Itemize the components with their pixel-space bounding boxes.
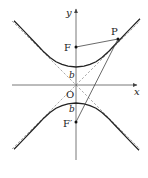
hyperbola-upper-curve bbox=[14, 19, 140, 67]
focus-upper-label: F bbox=[64, 42, 71, 53]
segment-f-p bbox=[76, 39, 118, 47]
hyperbola-diagram: y x O F F′ P b b bbox=[0, 0, 148, 178]
semi-axis-lower-label: b bbox=[69, 104, 75, 114]
point-p bbox=[117, 38, 120, 41]
y-axis-label: y bbox=[65, 7, 72, 18]
focus-lower-point bbox=[75, 121, 78, 124]
origin-label: O bbox=[66, 89, 74, 100]
x-axis-label: x bbox=[134, 86, 140, 97]
hyperbola-lower-curve bbox=[14, 103, 139, 150]
point-p-label: P bbox=[111, 26, 118, 37]
focus-lower-label: F′ bbox=[63, 118, 73, 129]
semi-axis-upper-label: b bbox=[69, 70, 75, 80]
focus-upper-point bbox=[75, 46, 78, 49]
